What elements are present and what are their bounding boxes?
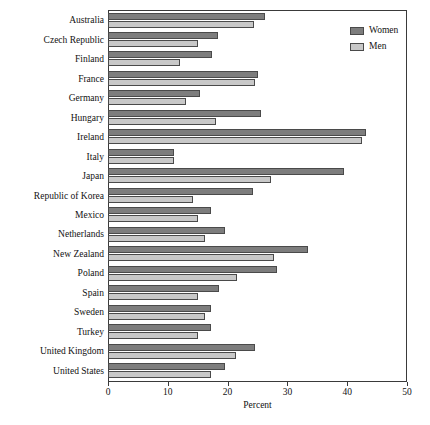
- legend-label-women: Women: [369, 25, 398, 36]
- bar-men: [108, 313, 205, 320]
- legend-label-men: Men: [369, 41, 386, 52]
- y-axis-label: Finland: [0, 54, 104, 64]
- bar-men: [108, 215, 198, 222]
- y-axis-label: New Zealand: [0, 249, 104, 259]
- bar-women: [108, 266, 277, 273]
- y-axis-category-labels: AustraliaCzech RepublicFinlandFranceGerm…: [0, 11, 104, 381]
- y-axis-label: United States: [0, 366, 104, 376]
- bar-row: [108, 363, 407, 382]
- bar-row: [108, 168, 407, 187]
- bars-container: [108, 11, 407, 381]
- y-axis-label: Italy: [0, 152, 104, 162]
- y-axis-label: Czech Republic: [0, 35, 104, 45]
- x-axis-tick: [407, 382, 408, 386]
- bar-women: [108, 344, 255, 351]
- legend-swatch-men: [350, 43, 364, 51]
- bar-row: [108, 110, 407, 129]
- bar-row: [108, 149, 407, 168]
- bar-row: [108, 305, 407, 324]
- bar-men: [108, 293, 198, 300]
- x-axis-tick-label: 10: [153, 387, 183, 398]
- bar-women: [108, 51, 212, 58]
- bar-men: [108, 79, 255, 86]
- y-axis-label: Australia: [0, 15, 104, 25]
- x-axis-tick: [347, 382, 348, 386]
- x-axis-tick-label: 20: [213, 387, 243, 398]
- bar-men: [108, 371, 211, 378]
- bar-row: [108, 344, 407, 363]
- bar-women: [108, 13, 265, 20]
- legend-entry-men: Men: [350, 40, 428, 53]
- y-axis-label: Germany: [0, 93, 104, 103]
- bar-men: [108, 235, 205, 242]
- bar-row: [108, 207, 407, 226]
- bar-women: [108, 207, 211, 214]
- bar-women: [108, 305, 211, 312]
- x-axis-tick-label: 0: [93, 387, 123, 398]
- x-axis-tick-label: 50: [392, 387, 422, 398]
- bar-men: [108, 332, 198, 339]
- bar-men: [108, 196, 193, 203]
- bar-men: [108, 40, 198, 47]
- legend-swatch-women: [350, 27, 364, 35]
- x-axis-tick-label: 30: [272, 387, 302, 398]
- bar-men: [108, 352, 236, 359]
- y-axis-label: Netherlands: [0, 229, 104, 239]
- bar-men: [108, 176, 271, 183]
- bar-chart: AustraliaCzech RepublicFinlandFranceGerm…: [0, 0, 430, 425]
- chart-legend: Women Men: [350, 24, 428, 56]
- bar-women: [108, 90, 200, 97]
- y-axis-label: Hungary: [0, 113, 104, 123]
- bar-women: [108, 188, 253, 195]
- bar-row: [108, 285, 407, 304]
- bar-women: [108, 285, 219, 292]
- x-axis-title: Percent: [108, 400, 407, 410]
- x-axis-tick-label: 40: [332, 387, 362, 398]
- y-axis-label: France: [0, 74, 104, 84]
- bar-men: [108, 254, 274, 261]
- bar-men: [108, 98, 186, 105]
- legend-entry-women: Women: [350, 24, 428, 37]
- bar-row: [108, 188, 407, 207]
- bar-women: [108, 129, 366, 136]
- bar-row: [108, 71, 407, 90]
- bar-women: [108, 149, 174, 156]
- x-axis-tick: [287, 382, 288, 386]
- x-axis-tick: [168, 382, 169, 386]
- bar-row: [108, 266, 407, 285]
- y-axis-label: Sweden: [0, 307, 104, 317]
- bar-men: [108, 21, 254, 28]
- bar-women: [108, 227, 225, 234]
- y-axis-label: Spain: [0, 288, 104, 298]
- y-axis-label: Turkey: [0, 327, 104, 337]
- bar-row: [108, 246, 407, 265]
- bar-men: [108, 118, 216, 125]
- y-axis-label: Poland: [0, 268, 104, 278]
- bar-row: [108, 90, 407, 109]
- bar-men: [108, 59, 180, 66]
- bar-women: [108, 168, 344, 175]
- bar-women: [108, 363, 225, 370]
- bar-row: [108, 227, 407, 246]
- bar-women: [108, 110, 261, 117]
- bar-women: [108, 32, 218, 39]
- y-axis-label: Mexico: [0, 210, 104, 220]
- bar-men: [108, 157, 174, 164]
- y-axis-label: Republic of Korea: [0, 191, 104, 201]
- y-axis-label: United Kingdom: [0, 346, 104, 356]
- bar-men: [108, 274, 237, 281]
- bar-row: [108, 129, 407, 148]
- bar-row: [108, 324, 407, 343]
- bar-women: [108, 71, 258, 78]
- bar-women: [108, 246, 308, 253]
- x-axis-tick: [108, 382, 109, 386]
- bar-women: [108, 324, 211, 331]
- bar-men: [108, 137, 362, 144]
- x-axis-tick: [228, 382, 229, 386]
- y-axis-label: Ireland: [0, 132, 104, 142]
- y-axis-label: Japan: [0, 171, 104, 181]
